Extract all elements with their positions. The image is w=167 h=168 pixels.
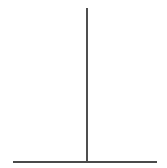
line-diagram-svg: [0, 0, 167, 168]
canvas-background: [0, 0, 167, 168]
diagram-canvas: [0, 0, 167, 168]
